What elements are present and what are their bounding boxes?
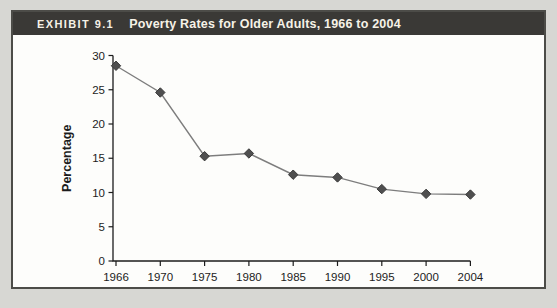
x-tick-label: 1985	[280, 271, 306, 283]
data-point-marker	[466, 190, 475, 199]
y-tick-label: 25	[92, 84, 105, 96]
data-point-marker	[156, 88, 165, 97]
x-tick-label: 2000	[413, 271, 439, 283]
page-background: EXHIBIT 9.1 Poverty Rates for Older Adul…	[0, 0, 557, 308]
exhibit-panel: EXHIBIT 9.1 Poverty Rates for Older Adul…	[11, 10, 546, 289]
y-tick-label: 5	[99, 221, 105, 233]
x-tick-label: 1975	[192, 271, 218, 283]
y-tick-label: 0	[99, 255, 105, 267]
data-point-marker	[421, 189, 430, 198]
chart-svg: 0510152025301966197019751980198519901995…	[13, 35, 544, 287]
x-tick-label: 1980	[236, 271, 262, 283]
exhibit-header: EXHIBIT 9.1 Poverty Rates for Older Adul…	[13, 12, 544, 35]
x-tick-label: 1990	[325, 271, 351, 283]
y-tick-label: 15	[92, 152, 105, 164]
y-tick-label: 20	[92, 118, 105, 130]
data-point-marker	[200, 151, 209, 160]
exhibit-tag: EXHIBIT 9.1	[37, 18, 114, 30]
y-axis-title: Percentage	[60, 125, 74, 192]
data-point-marker	[377, 184, 386, 193]
x-tick-label: 1966	[103, 271, 129, 283]
y-tick-label: 30	[92, 50, 105, 62]
data-point-marker	[289, 170, 298, 179]
data-point-marker	[333, 173, 342, 182]
x-tick-label: 2004	[458, 271, 484, 283]
exhibit-title: Poverty Rates for Older Adults, 1966 to …	[129, 17, 401, 31]
poverty-line-chart: 0510152025301966197019751980198519901995…	[13, 35, 544, 287]
y-tick-label: 10	[92, 187, 105, 199]
data-point-marker	[244, 149, 253, 158]
x-tick-label: 1995	[369, 271, 395, 283]
x-tick-label: 1970	[148, 271, 174, 283]
